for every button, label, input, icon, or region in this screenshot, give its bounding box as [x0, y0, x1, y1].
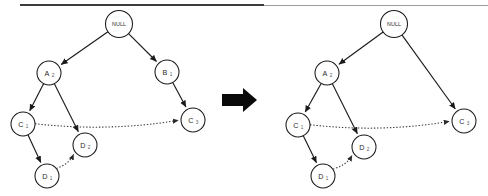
node-label: D — [42, 172, 47, 181]
node-b1: B1 — [155, 60, 179, 84]
node-layer: NULLA2C1C3D2D1 — [286, 11, 476, 189]
node-label-subscript: 2 — [367, 147, 370, 152]
left-diagram-before: NULLA2B1C1C3D2D1 — [11, 11, 205, 189]
edge-a-to-d2 — [332, 84, 357, 134]
node-d2: D2 — [73, 133, 97, 157]
node-label: D — [80, 141, 85, 150]
node-label-subscript: 3 — [196, 120, 199, 125]
right-diagram-after: NULLA2C1C3D2D1 — [286, 11, 476, 189]
edge-a-to-d2 — [54, 84, 78, 132]
edge-layer — [303, 32, 455, 169]
node-label-subscript: 1 — [50, 176, 53, 181]
node-label: C — [293, 121, 298, 130]
node-label: C — [18, 120, 23, 129]
edge-c1-to-c3-dotted — [310, 121, 449, 128]
edge-null-to-a — [61, 32, 108, 65]
node-label: A — [44, 69, 49, 78]
node-a2: A2 — [37, 61, 61, 85]
node-label-subscript: 1 — [26, 124, 29, 129]
node-d2: D2 — [352, 135, 376, 159]
node-c1: C1 — [286, 113, 310, 137]
node-label: C — [459, 117, 464, 126]
right-arrow-icon — [222, 88, 257, 112]
node-label: NULL — [112, 21, 126, 27]
node-label-subscript: 2 — [330, 73, 333, 78]
edge-c1-to-c3-dotted — [35, 120, 178, 127]
node-null: NULL — [381, 11, 408, 38]
edge-b-to-c3 — [173, 83, 186, 107]
node-label-subscript: 3 — [467, 121, 470, 126]
node-label: B — [162, 68, 167, 77]
node-label: D — [318, 172, 323, 181]
node-c3: C3 — [452, 109, 476, 133]
node-d1: D1 — [35, 164, 59, 188]
node-label: D — [359, 143, 364, 152]
node-label: A — [322, 69, 327, 78]
node-label-subscript: 2 — [88, 145, 91, 150]
edge-c1-to-d1 — [303, 136, 316, 163]
edge-null-to-a — [339, 32, 383, 64]
node-label-subscript: 2 — [52, 73, 55, 78]
node-c1: C1 — [11, 112, 35, 136]
node-a2: A2 — [315, 61, 339, 85]
node-null: NULL — [106, 11, 133, 38]
edge-layer — [28, 32, 186, 169]
edge-null-to-b — [129, 34, 157, 62]
node-label: NULL — [387, 21, 401, 27]
edge-d1-to-d2-dotted — [333, 155, 352, 169]
edge-a-to-c1 — [305, 83, 321, 112]
node-label-subscript: 1 — [170, 72, 173, 77]
edge-a-to-c1 — [30, 84, 44, 111]
node-c3: C3 — [181, 108, 205, 132]
edge-null-to-c3 — [402, 35, 455, 109]
edge-c1-to-d1 — [28, 135, 41, 163]
transformation-arrow — [222, 88, 257, 112]
node-d1: D1 — [311, 164, 335, 188]
node-label-subscript: 1 — [326, 176, 329, 181]
node-label-subscript: 1 — [301, 125, 304, 130]
node-label: C — [188, 116, 193, 125]
top-divider-group — [20, 5, 488, 6]
diagram-canvas: NULLA2B1C1C3D2D1 NULLA2C1C3D2D1 — [0, 0, 488, 196]
edge-d1-to-d2-dotted — [56, 154, 73, 168]
